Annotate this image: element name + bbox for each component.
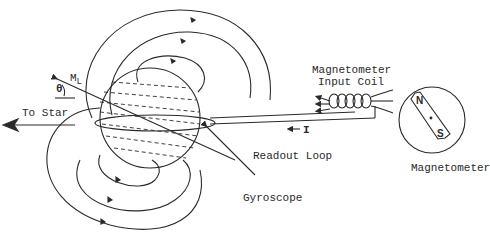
internal-field-lines: [100, 82, 200, 158]
gyroscope-label: Gyroscope: [243, 192, 302, 204]
ml-sub: L: [77, 77, 82, 87]
to-star-label: To Star: [22, 107, 68, 119]
input-coil-label-2: Input Coil: [318, 76, 384, 88]
magnetometer-dial: [399, 87, 465, 153]
readout-loop-label: Readout Loop: [253, 150, 332, 162]
input-coil-label-1: Magnetometer: [312, 64, 391, 76]
lead-wire-bottom: [210, 118, 375, 124]
ml-main: M: [70, 72, 77, 84]
current-label: I: [303, 124, 310, 136]
magnetometer-label: Magnetometer: [411, 162, 490, 174]
compass-south-label: S: [437, 128, 444, 140]
upper-field-lines: [86, 10, 271, 118]
lower-field-lines: [47, 108, 202, 229]
compass-north-label: N: [416, 95, 423, 107]
input-coil: [318, 90, 393, 118]
theta-label: θ: [56, 83, 63, 95]
lead-wire-top: [210, 112, 355, 118]
diagram-canvas: [0, 0, 490, 242]
ml-label: ML: [70, 72, 82, 88]
